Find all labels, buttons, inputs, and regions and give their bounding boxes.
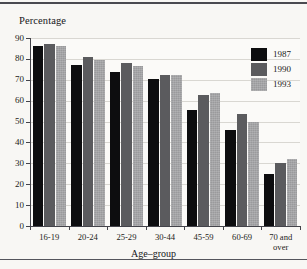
bar-1993-70-and-over <box>287 159 298 226</box>
bar-1993-16-19 <box>56 46 67 226</box>
y-axis-tick-label: 60 <box>2 96 24 105</box>
y-axis-tick-label: 70 <box>2 75 24 84</box>
legend-item-1987[interactable]: 1987 <box>251 47 303 62</box>
figure-canvas: Percentage 0102030405060708090 16-1920-2… <box>0 0 307 269</box>
legend-label: 1993 <box>273 79 291 89</box>
bar-1993-20-24 <box>94 60 105 226</box>
x-axis-tick <box>146 226 147 230</box>
x-axis-tick <box>300 226 301 230</box>
legend-swatch-icon <box>251 63 267 76</box>
y-axis-tick <box>26 142 30 143</box>
bar-1993-60-69 <box>248 122 259 226</box>
y-axis-tick-label: 90 <box>2 34 24 43</box>
y-axis-tick-label: 20 <box>2 180 24 189</box>
x-axis-label: 25-29 <box>107 232 146 242</box>
x-axis-label: 16-19 <box>30 232 69 242</box>
y-axis-tick <box>26 80 30 81</box>
x-axis-tick <box>223 226 224 230</box>
x-axis-label: 30-44 <box>146 232 185 242</box>
bar-1990-60-69 <box>237 114 248 226</box>
x-axis-title: Age–group <box>0 248 307 259</box>
y-axis-tick-label: 40 <box>2 138 24 147</box>
legend-item-1993[interactable]: 1993 <box>251 77 303 92</box>
x-axis-tick <box>107 226 108 230</box>
top-divider-rule <box>0 2 307 4</box>
legend-swatch-icon <box>251 78 267 91</box>
bottom-divider-rule <box>0 259 307 260</box>
y-axis-tick-label: 50 <box>2 117 24 126</box>
y-axis-tick <box>26 59 30 60</box>
gridline <box>30 38 300 39</box>
legend-item-1990[interactable]: 1990 <box>251 62 303 77</box>
y-axis-tick-label: 10 <box>2 201 24 210</box>
legend: 198719901993 <box>251 47 303 92</box>
bar-1990-25-29 <box>121 63 132 226</box>
y-axis-tick <box>26 122 30 123</box>
bar-1987-25-29 <box>110 72 121 226</box>
x-axis-tick <box>261 226 262 230</box>
y-axis-tick-label: 80 <box>2 54 24 63</box>
y-axis-tick-label: 30 <box>2 159 24 168</box>
y-axis-title: Percentage <box>19 15 66 26</box>
x-axis-line <box>30 226 301 227</box>
bar-1990-16-19 <box>44 44 55 226</box>
bar-1993-45-59 <box>210 93 221 226</box>
bar-1987-45-59 <box>187 110 198 226</box>
y-axis-tick <box>26 163 30 164</box>
y-axis-tick <box>26 38 30 39</box>
y-axis-tick <box>26 184 30 185</box>
bar-1990-45-59 <box>198 95 209 226</box>
legend-swatch-icon <box>251 48 267 61</box>
x-axis-tick <box>184 226 185 230</box>
y-axis-tick <box>26 101 30 102</box>
bar-1993-30-44 <box>171 75 182 226</box>
x-axis-tick <box>69 226 70 230</box>
bar-1987-30-44 <box>148 79 159 226</box>
y-axis-tick-label: 0 <box>2 222 24 231</box>
bar-1993-25-29 <box>133 66 144 226</box>
legend-label: 1990 <box>273 64 291 74</box>
bar-1990-70-and-over <box>275 163 286 226</box>
bar-1987-60-69 <box>225 130 236 226</box>
bar-1990-30-44 <box>160 75 171 226</box>
bar-1990-20-24 <box>83 57 94 226</box>
x-axis-tick <box>30 226 31 230</box>
x-axis-label: 20-24 <box>69 232 108 242</box>
x-axis-label: 45-59 <box>184 232 223 242</box>
bar-1987-20-24 <box>71 65 82 226</box>
x-axis-label: 60-69 <box>223 232 262 242</box>
y-axis-tick <box>26 205 30 206</box>
y-axis-line <box>30 38 31 227</box>
legend-label: 1987 <box>273 49 291 59</box>
bar-1987-70-and-over <box>264 174 275 226</box>
bar-1987-16-19 <box>33 46 44 226</box>
